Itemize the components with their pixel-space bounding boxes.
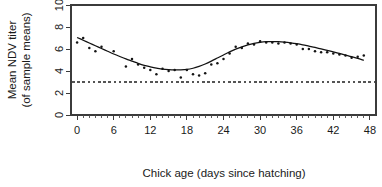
data-point (192, 73, 195, 76)
x-tick-label: 0 (74, 124, 80, 136)
data-point (125, 65, 128, 68)
data-point (137, 63, 140, 66)
data-point (143, 66, 146, 69)
data-point (210, 63, 213, 66)
data-point (112, 50, 115, 53)
data-point (222, 58, 225, 61)
data-point (180, 76, 183, 79)
data-point (277, 42, 280, 45)
scatter-plot-canvas: 0246810 0612182430364248 Mean NDV titer … (0, 0, 382, 187)
y-tick-label: 6 (53, 46, 65, 52)
data-point (216, 62, 219, 65)
data-point (271, 41, 274, 44)
data-point (149, 69, 152, 72)
y-tick-label: 2 (53, 90, 65, 96)
data-point (356, 55, 359, 58)
y-tick-label: 0 (53, 112, 65, 118)
data-point (308, 48, 311, 51)
data-point (302, 48, 305, 51)
data-point (155, 73, 158, 76)
x-tick-label: 24 (217, 124, 229, 136)
y-tick-label: 4 (53, 68, 65, 74)
x-axis: 0612182430364248 (74, 115, 376, 136)
chart-figure: 0246810 0612182430364248 Mean NDV titer … (0, 0, 382, 187)
data-point (76, 41, 79, 44)
x-tick-label: 6 (111, 124, 117, 136)
data-point (173, 69, 176, 72)
data-point (283, 41, 286, 44)
y-tick-label: 8 (53, 24, 65, 30)
x-tick-label: 48 (364, 124, 376, 136)
x-tick-label: 12 (144, 124, 156, 136)
data-point (344, 54, 347, 57)
x-tick-label: 30 (254, 124, 266, 136)
x-tick-label: 42 (327, 124, 339, 136)
x-tick-label: 18 (181, 124, 193, 136)
data-points (76, 37, 365, 79)
data-point (88, 47, 91, 50)
data-point (228, 52, 231, 55)
data-point (186, 69, 189, 72)
y-axis-title: Mean NDV titer (of sample means) (6, 12, 32, 107)
data-point (253, 43, 256, 46)
data-point (289, 42, 292, 45)
data-point (161, 68, 164, 71)
data-point (241, 47, 244, 50)
y-axis: 0246810 (53, 0, 71, 118)
data-point (332, 52, 335, 55)
data-point (363, 54, 366, 57)
data-point (82, 37, 85, 40)
data-point (320, 51, 323, 54)
data-point (259, 40, 262, 43)
data-point (265, 41, 268, 44)
data-point (350, 57, 353, 60)
data-point (314, 50, 317, 53)
fitted-curve-group (77, 37, 364, 69)
data-point (234, 46, 237, 49)
data-point (326, 51, 329, 54)
data-point (198, 74, 201, 77)
data-point (204, 72, 207, 75)
y-axis-title-line1: Mean NDV titer (6, 21, 18, 100)
data-point (295, 43, 298, 46)
y-axis-title-line2: (of sample means) (20, 12, 32, 107)
data-point (247, 42, 250, 45)
x-tick-label: 36 (291, 124, 303, 136)
data-point (167, 70, 170, 73)
data-point (131, 58, 134, 61)
y-tick-label: 10 (53, 0, 65, 11)
data-point (100, 46, 103, 49)
x-axis-title: Chick age (days since hatching) (143, 167, 306, 179)
data-point (94, 50, 97, 53)
data-point (338, 53, 341, 56)
